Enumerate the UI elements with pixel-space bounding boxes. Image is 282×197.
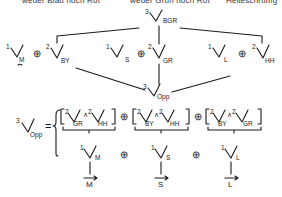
connector-left	[57, 28, 139, 43]
b1-a-sup: 2	[65, 109, 69, 116]
bracket-close-2	[186, 109, 189, 124]
mid-sub-m: M	[19, 57, 24, 64]
b3-b-sub: GR	[243, 121, 253, 128]
bottom-l-sup: 1	[221, 145, 225, 152]
b3-b-sup: 2	[232, 109, 236, 116]
oplus-operator: ⊕	[137, 49, 145, 59]
bottom-m-sub: M	[95, 155, 100, 162]
b2-b-sub: HH	[170, 121, 179, 128]
bottom-l-sub: L	[236, 155, 240, 162]
check-symbol-bgr	[150, 10, 162, 21]
underbrace-1	[63, 127, 115, 133]
bracket-open-3	[206, 109, 209, 124]
bracket-close-1	[112, 109, 115, 124]
b2-a-sup: 2	[137, 109, 141, 116]
diagram-strokes	[0, 0, 282, 197]
oplus-operator: ⊕	[33, 49, 41, 59]
top-node-sup: 3	[145, 9, 149, 16]
bracket-close-3	[258, 109, 261, 124]
b1-a-sub: GR	[73, 121, 83, 128]
check-symbol-s	[111, 45, 123, 57]
b1-b-sub: HH	[98, 121, 107, 128]
underbrace-3	[208, 127, 261, 133]
curly-brace-left	[53, 110, 60, 156]
tilde-m	[18, 64, 22, 65]
mid-sub-gr: GR	[163, 58, 173, 65]
lhs-sup: 3	[16, 118, 20, 125]
bracket-open-1	[61, 109, 64, 124]
oplus-operator: ⊕	[120, 112, 128, 122]
oplus-operator: ⊕	[194, 112, 202, 122]
mid-sup-by: 2	[46, 44, 50, 51]
vector-label-s: S	[158, 181, 163, 189]
oplus-operator: ⊕	[192, 150, 200, 160]
vector-label-l: L	[228, 181, 232, 189]
mid-sup-s: 1	[106, 44, 110, 51]
connector-hh-opp	[172, 76, 230, 92]
opp-node-sup: 3	[143, 84, 147, 91]
lhs-sub: Opp	[30, 132, 42, 139]
oplus-operator: ⊕	[120, 150, 128, 160]
mid-sup-m: 1	[6, 44, 10, 51]
oplus-operator: ⊕	[238, 49, 246, 59]
mid-sub-hh: HH	[265, 58, 274, 65]
mid-sup-hh: 2	[252, 44, 256, 51]
opp-node-sub: Opp	[157, 94, 169, 101]
mid-sub-l: L	[224, 57, 228, 64]
connector-right	[180, 28, 262, 43]
mid-sub-s: S	[125, 57, 129, 64]
bottom-s-sup: 1	[151, 145, 155, 152]
b2-b-sup: 2	[159, 109, 163, 116]
mid-sub-by: BY	[61, 58, 70, 65]
b3-a-sub: BY	[218, 121, 227, 128]
b2-a-sub: BY	[145, 121, 154, 128]
b3-a-sup: 2	[210, 109, 214, 116]
underbrace-2	[135, 127, 188, 133]
bracket-open-2	[133, 109, 136, 124]
bottom-s-sub: S	[166, 155, 170, 162]
equals-sign: =	[45, 121, 51, 132]
top-node-sub: BGR	[163, 18, 177, 25]
vector-label-m: M	[86, 181, 93, 189]
b1-b-sup: 2	[88, 109, 92, 116]
mid-sup-gr: 2	[148, 44, 152, 51]
connector-by-opp	[76, 68, 145, 90]
bottom-m-sup: 1	[80, 145, 84, 152]
mid-sup-l: 1	[208, 44, 212, 51]
